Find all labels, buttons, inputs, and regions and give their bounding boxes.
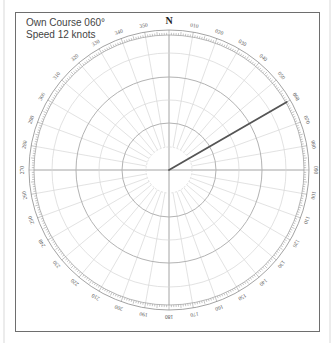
bearing-label: 080 [310,140,317,149]
radial-line [42,124,147,162]
bearing-label: 240 [37,238,46,248]
maneuvering-board: N010020030040050060070080090100110120130… [0,0,333,343]
speed-text: Speed 12 knots [26,29,105,41]
bearing-label: 230 [51,259,61,269]
bearing-label: 070 [303,115,312,125]
bearing-label: 300 [37,91,46,101]
bearing-label: 280 [21,140,28,149]
bearing-label: 140 [258,278,268,288]
radial-line [191,124,296,162]
radial-line [82,67,154,153]
bearing-label: 260 [21,191,28,200]
radial-line [177,43,215,148]
bearing-label: 130 [276,259,286,269]
bearing-label: 090 [313,166,319,175]
radial-line [191,178,296,216]
bearing-label: 270 [19,166,25,175]
north-label: N [165,15,173,26]
bearing-label: 190 [139,311,148,318]
radial-line [66,185,152,257]
radial-line [82,188,154,274]
bearing-label: 200 [114,304,124,313]
radial-line [123,43,161,148]
bearing-label: 290 [27,115,36,125]
bearing-label: 220 [69,277,79,287]
bearing-label: 150 [237,293,247,302]
radial-line [42,178,147,216]
bearing-label: 180 [165,314,174,320]
bearing-label: 160 [214,304,224,313]
radial-line [177,192,215,297]
bearing-label: 110 [303,215,311,225]
bearing-label: 120 [292,238,301,248]
radial-line [184,67,256,153]
radial-line [66,83,152,155]
bearing-label: 340 [114,28,124,37]
bearing-label: 060 [292,91,301,101]
own-ship-info: Own Course 060° Speed 12 knots [26,17,105,41]
bearing-label: 050 [277,70,287,80]
bearing-label: 170 [190,311,199,318]
bearing-label: 040 [258,52,268,62]
bearing-label: 100 [310,191,317,200]
bearing-label: 210 [90,293,100,302]
bearing-label: 250 [27,215,36,225]
bearing-label: 320 [69,52,79,62]
radial-line [184,188,256,274]
radial-line [187,83,273,155]
bearing-label: 350 [139,22,148,29]
bearing-label: 010 [190,22,199,29]
bearing-label: 030 [237,38,247,47]
bearing-label: 310 [51,70,61,80]
radial-line [123,192,161,297]
radial-line [187,185,273,257]
bearing-label: 020 [214,28,224,37]
own-course-text: Own Course 060° [26,17,105,29]
